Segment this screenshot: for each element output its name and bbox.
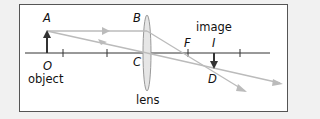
label-I: I [212, 38, 215, 50]
label-A: A [43, 13, 51, 25]
rays [47, 31, 280, 91]
label-O: O [43, 61, 52, 73]
image-arrow [210, 53, 218, 69]
object-arrow [43, 30, 51, 53]
label-C: C [133, 57, 141, 69]
label-F: F [184, 38, 191, 50]
label-B: B [133, 13, 141, 25]
label-D: D [208, 74, 217, 86]
label-lens: lens [136, 95, 160, 107]
label-image: image [196, 22, 232, 34]
label-object: object [28, 74, 63, 86]
